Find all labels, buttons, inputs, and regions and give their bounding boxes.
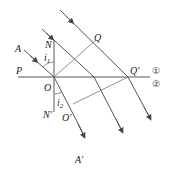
medium-2-label: ②	[152, 79, 160, 89]
arrow-icon	[116, 119, 122, 131]
label-o: O	[44, 82, 51, 93]
label-q-prime: Q′	[130, 65, 140, 76]
label-n-prime: N′	[42, 109, 53, 120]
arrow-icon	[46, 33, 52, 39]
label-p: P	[15, 65, 22, 76]
arrow-icon	[144, 107, 150, 118]
arrow-icon	[30, 56, 36, 62]
label-o-prime: O′	[62, 112, 72, 123]
label-a-prime: A′	[74, 154, 84, 165]
label-a: A	[14, 43, 22, 54]
label-n: N	[44, 39, 53, 50]
medium-1-label: ①	[152, 66, 160, 76]
arrow-icon	[78, 124, 84, 136]
arrow-icon	[66, 16, 72, 22]
refracted-wavefront	[73, 77, 128, 104]
refraction-diagram: A N i1 P O i2 N′ O′ Q Q′ A′ ① ②	[0, 0, 170, 169]
label-q: Q	[94, 32, 102, 43]
label-i2: i2	[57, 97, 64, 110]
refraction-angle-arc	[54, 92, 62, 94]
label-i1: i1	[44, 52, 50, 65]
